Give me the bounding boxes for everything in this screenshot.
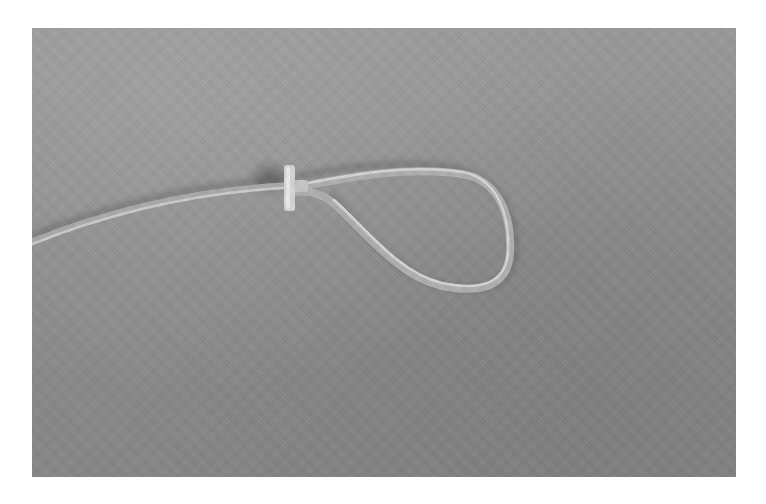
photo — [32, 28, 736, 477]
collar — [284, 165, 308, 211]
tube-loop-illustration — [32, 28, 736, 477]
tube-loop — [294, 169, 510, 289]
